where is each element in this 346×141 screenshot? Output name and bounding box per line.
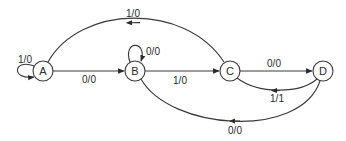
node-label-b: B bbox=[131, 65, 138, 77]
node-a: A bbox=[33, 61, 53, 81]
edge-a-to-a: 1/0 bbox=[17, 54, 34, 78]
edge-c-to-d: 0/0 bbox=[240, 58, 312, 72]
edge-label-d-c: 1/1 bbox=[270, 93, 284, 104]
edge-b-to-c: 1/0 bbox=[145, 71, 219, 86]
node-d: D bbox=[313, 61, 333, 81]
edge-d-to-c: 1/1 bbox=[237, 78, 317, 104]
state-diagram: 1/0 0/0 0/0 1/0 1/0 0/0 1/1 0/0 A bbox=[0, 0, 346, 141]
edge-b-to-b: 0/0 bbox=[128, 45, 160, 62]
node-c: C bbox=[220, 61, 240, 81]
node-b: B bbox=[125, 61, 145, 81]
edge-label-b-c: 1/0 bbox=[173, 75, 187, 86]
edge-d-to-b: 0/0 bbox=[141, 79, 320, 136]
node-label-c: C bbox=[226, 65, 234, 77]
edge-label-d-b: 0/0 bbox=[228, 125, 242, 136]
edge-label-a-b: 0/0 bbox=[82, 74, 96, 85]
edge-label-c-d: 0/0 bbox=[267, 58, 281, 69]
node-label-a: A bbox=[39, 65, 47, 77]
edge-label-c-a: 1/0 bbox=[126, 8, 140, 19]
node-label-d: D bbox=[319, 65, 327, 77]
edge-label-a-a: 1/0 bbox=[18, 54, 32, 65]
edge-c-to-a: 1/0 bbox=[48, 8, 224, 63]
edge-label-b-b: 0/0 bbox=[146, 46, 160, 57]
edge-a-to-b: 0/0 bbox=[53, 71, 124, 85]
